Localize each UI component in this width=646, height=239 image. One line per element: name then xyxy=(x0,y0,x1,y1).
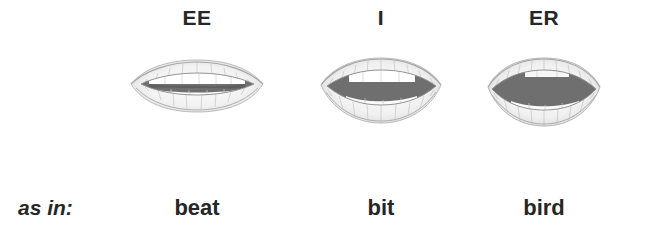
lips-illustration-er xyxy=(459,55,629,129)
lips-illustration-ee xyxy=(112,57,282,115)
lips-icon-er xyxy=(485,55,603,129)
vowel-symbol-i: I xyxy=(296,5,466,30)
vowel-mouth-shape-figure: EE xyxy=(0,0,646,239)
example-word-beat: beat xyxy=(112,195,282,221)
lips-illustration-i xyxy=(296,54,466,126)
lips-icon-ee xyxy=(127,57,267,115)
vowel-symbol-er: ER xyxy=(459,5,629,30)
vowel-symbol-ee: EE xyxy=(112,5,282,30)
example-word-bit: bit xyxy=(296,195,466,221)
vowel-column-er: ER xyxy=(459,0,629,239)
as-in-row-label: as in: xyxy=(18,195,73,221)
lips-icon-i xyxy=(318,54,444,126)
vowel-column-i: I xyxy=(296,0,466,239)
vowel-column-ee: EE xyxy=(112,0,282,239)
example-word-bird: bird xyxy=(459,195,629,221)
